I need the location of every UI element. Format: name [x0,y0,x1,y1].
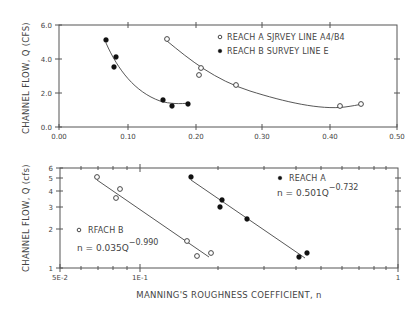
top-x-tick-label: 0.00 [51,133,67,141]
top-x-tick-label: 0.10 [120,133,136,141]
bottom-reach-a-annotation: REACH A n = 0.501Q−0.732 [277,174,358,198]
top-y-tick-label: 2.0 [41,90,52,98]
bottom-x-axis-label: MANNING'S ROUGHNESS COEFFICIENT, n [136,290,321,300]
bottom-x-ticks: 5E-2 1E-1 1 [52,164,400,282]
bottom-reach-b-annotation: RFACH B n = 0.035Q−0.990 [77,226,158,253]
top-x-tick-label: 0.30 [254,133,270,141]
bottom-x-tick-label: 5E-2 [52,274,68,282]
legend-filled-circle-icon [278,176,282,180]
bottom-y-tick-label: 1 [49,265,53,273]
bottom-y-axis-label: CHANNEL FLOW, Q (cfs) [21,164,31,272]
top-y-axis-label: CHANNEL FLOW, Q (CFS) [21,22,31,134]
top-x-tick-label: 0.20 [188,133,204,141]
top-legend-reach-b: REACH B SURVEY LINE E [227,47,329,56]
bottom-y-tick-label: 6 [49,165,54,173]
top-reach-b-fit-curve [106,43,190,104]
bottom-x-tick-label: 1E-1 [132,274,148,282]
legend-open-circle-icon [218,35,222,39]
bottom-x-tick-label: 1 [396,274,400,282]
top-y-tick-label: 6.0 [41,22,52,30]
bottom-panel: CHANNEL FLOW, Q (cfs) 1 2 3 4 5 6 [21,164,401,300]
bottom-y-tick-label: 3 [49,204,53,212]
top-reach-b-points [104,38,191,109]
top-x-tick-label: 0.50 [389,133,405,141]
top-x-tick-label: 0.40 [322,133,338,141]
bottom-y-ticks: 1 2 3 4 5 6 [49,165,401,273]
bottom-reach-b-equation: n = 0.035Q−0.990 [77,238,158,253]
bottom-reach-a-equation: n = 0.501Q−0.732 [277,183,358,198]
top-panel: CHANNEL FLOW, Q (CFS) 0.0 2.0 4.0 6.0 [21,22,405,141]
bottom-reach-b-label: RFACH B [88,226,124,235]
figure: CHANNEL FLOW, Q (CFS) 0.0 2.0 4.0 6.0 [0,0,418,314]
top-y-tick-label: 4.0 [41,56,52,64]
bottom-y-tick-label: 4 [49,188,54,196]
bottom-reach-a-label: REACH A [289,174,326,183]
bottom-y-tick-label: 2 [49,226,53,234]
top-legend: REACH A SJRVEY LINE A4/B4 REACH B SURVEY… [218,33,345,56]
legend-filled-circle-icon [218,49,222,53]
legend-open-circle-icon [77,228,81,232]
top-y-tick-label: 0.0 [41,124,52,132]
top-legend-reach-a: REACH A SJRVEY LINE A4/B4 [227,33,345,42]
bottom-y-tick-label: 5 [49,175,53,183]
